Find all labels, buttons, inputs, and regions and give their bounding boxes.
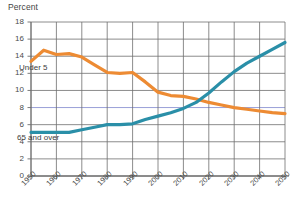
plot-area	[0, 0, 293, 202]
y-tick-label: 10	[8, 86, 24, 94]
series-label-under-5: Under 5	[19, 64, 47, 72]
y-tick-label: 2	[8, 155, 24, 163]
y-tick-label: 16	[8, 35, 24, 43]
series-label-65-and-over: 65 and over	[17, 134, 59, 142]
y-tick-label: 14	[8, 52, 24, 60]
y-tick-label: 8	[8, 104, 24, 112]
y-tick-label: 18	[8, 18, 24, 26]
population-age-line-chart: Percent 181614121086420 1950196019701980…	[0, 0, 293, 202]
y-tick-label: 6	[8, 121, 24, 129]
